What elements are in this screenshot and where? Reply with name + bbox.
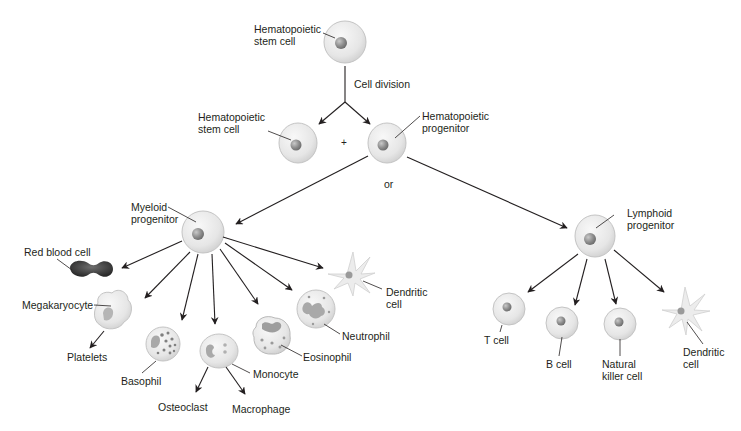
label-dendritic-cell-lymphoid: Dendritic cell bbox=[683, 346, 724, 370]
label-myeloid-progenitor: Myeloid progenitor bbox=[131, 201, 178, 225]
hsc-top-cell bbox=[324, 21, 366, 63]
t-cell bbox=[493, 293, 525, 325]
natural-killer-cell bbox=[604, 308, 636, 340]
b-cell bbox=[546, 307, 578, 339]
label-hematopoietic-progenitor: Hematopoietic progenitor bbox=[422, 110, 489, 134]
lymphoid-progenitor-cell bbox=[575, 215, 615, 257]
megakaryocyte-cell bbox=[94, 290, 131, 329]
dendritic-cell-myeloid bbox=[328, 252, 375, 296]
label-cell-division: Cell division bbox=[354, 78, 410, 90]
label-macrophage: Macrophage bbox=[232, 403, 290, 415]
label-hsc-daughter: Hematopoietic stem cell bbox=[198, 111, 265, 135]
dendritic-cell-lymphoid bbox=[662, 287, 710, 335]
label-or: or bbox=[384, 178, 393, 190]
label-neutrophil: Neutrophil bbox=[342, 330, 390, 342]
myeloid-progenitor-cell bbox=[182, 211, 224, 253]
hematopoiesis-diagram: Hematopoietic stem cell Cell division He… bbox=[0, 0, 741, 431]
basophil-cell bbox=[146, 327, 180, 361]
hematopoietic-progenitor-cell bbox=[368, 123, 406, 163]
label-natural-killer-cell: Natural killer cell bbox=[602, 358, 642, 382]
label-lymphoid-progenitor: Lymphoid progenitor bbox=[627, 207, 674, 231]
monocyte-cell bbox=[200, 334, 238, 368]
label-basophil: Basophil bbox=[121, 375, 161, 387]
hsc-daughter-cell bbox=[279, 123, 317, 163]
eosinophil-cell bbox=[253, 317, 290, 354]
label-dendritic-cell-myeloid: Dendritic cell bbox=[386, 286, 427, 310]
label-megakaryocyte: Megakaryocyte bbox=[22, 299, 93, 311]
label-eosinophil: Eosinophil bbox=[303, 351, 351, 363]
label-monocyte: Monocyte bbox=[253, 368, 299, 380]
label-hsc-top: Hematopoietic stem cell bbox=[254, 23, 321, 47]
label-osteoclast: Osteoclast bbox=[158, 401, 208, 413]
label-plus: + bbox=[341, 137, 347, 149]
red-blood-cell bbox=[70, 261, 113, 277]
label-red-blood-cell: Red blood cell bbox=[24, 246, 91, 258]
label-t-cell: T cell bbox=[484, 334, 509, 346]
neutrophil-cell bbox=[297, 290, 335, 328]
label-b-cell: B cell bbox=[546, 358, 572, 370]
label-platelets: Platelets bbox=[67, 351, 107, 363]
